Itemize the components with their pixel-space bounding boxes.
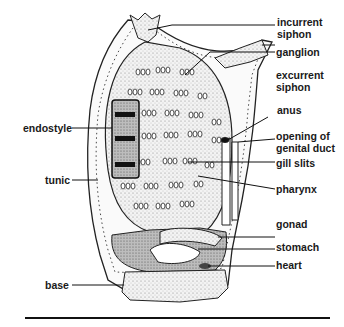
tunicate-anatomy-diagram: incurrent siphon ganglion excurrent siph… <box>0 0 344 327</box>
label-text: siphon <box>277 28 311 40</box>
label-ganglion: ganglion <box>276 46 320 58</box>
label-incurrent-siphon: incurrent siphon <box>277 16 344 40</box>
base-shape <box>122 270 228 302</box>
label-stomach: stomach <box>276 241 319 253</box>
label-anus: anus <box>277 104 302 116</box>
label-endostyle: endostyle <box>23 122 72 134</box>
label-pharynx: pharynx <box>276 183 317 195</box>
gut-region <box>112 228 227 272</box>
label-text: genital duct <box>276 142 335 154</box>
label-gonad: gonad <box>276 218 308 230</box>
label-base: base <box>45 279 69 291</box>
label-text: incurrent <box>277 16 323 28</box>
label-heart: heart <box>276 259 302 271</box>
label-text: siphon <box>276 81 310 93</box>
label-text: opening of <box>276 130 330 142</box>
label-text: excurrent <box>276 69 324 81</box>
label-opening-of-genital-duct: opening of genital duct <box>276 130 344 154</box>
label-gill-slits: gill slits <box>276 157 315 169</box>
label-tunic: tunic <box>45 174 70 186</box>
label-excurrent-siphon: excurrent siphon <box>276 69 344 93</box>
bottom-rule <box>25 317 330 319</box>
